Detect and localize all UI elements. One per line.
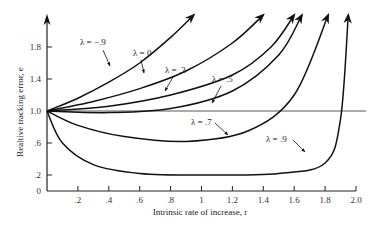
x-ticks: .2.4.6.811.21.41.61.82.0: [75, 186, 363, 205]
y-axis-title: Realtive tracking error, e: [15, 67, 25, 157]
x-tick-label: 1.8: [319, 195, 331, 205]
x-tick-label: .4: [105, 195, 112, 205]
curve-line: [47, 15, 294, 111]
y-tick-label: 0: [37, 186, 42, 196]
chart: .2.4.6.811.21.41.61.82.0 0.2.61.01.41.8 …: [0, 0, 369, 227]
curve-label: λ = 0: [133, 48, 152, 58]
y-tick-label: 1.8: [30, 42, 42, 52]
y-tick-label: .2: [34, 170, 41, 180]
pointer-arrow-icon: [293, 140, 305, 152]
x-tick-label: .6: [136, 195, 143, 205]
x-axis-title: Intrinsic rate of increase, r: [153, 207, 248, 217]
curve-line: [47, 15, 263, 111]
curve-label: λ = .3: [165, 65, 186, 75]
x-tick-label: 2.0: [350, 195, 362, 205]
y-ticks: 0.2.61.01.41.8: [30, 42, 52, 196]
y-tick-label: 1.4: [30, 74, 42, 84]
pointer-arrow-icon: [215, 123, 228, 135]
x-tick-label: .8: [167, 195, 174, 205]
curve-label: λ = .9: [266, 134, 287, 144]
pointer-arrow-icon: [212, 86, 221, 103]
y-tick-label: 1.0: [30, 106, 42, 116]
curve-line: [47, 15, 302, 113]
curve-line: [47, 15, 194, 111]
curve-line: [47, 15, 328, 142]
y-tick-label: .6: [34, 138, 41, 148]
curve-label: λ = .5: [212, 74, 233, 84]
curves: λ = −.9λ = 0λ = .3λ = .5λ = .7λ = .9: [47, 15, 348, 175]
x-tick-label: 1.2: [227, 195, 238, 205]
pointer-arrow-icon: [103, 50, 110, 66]
x-tick-label: 1.6: [289, 195, 301, 205]
curve-label: λ = −.9: [80, 37, 106, 47]
pointer-arrow-icon: [141, 60, 144, 73]
curve-label: λ = .7: [191, 117, 212, 127]
x-tick-label: .2: [75, 195, 82, 205]
x-tick-label: 1.4: [258, 195, 270, 205]
x-tick-label: 1: [199, 195, 204, 205]
